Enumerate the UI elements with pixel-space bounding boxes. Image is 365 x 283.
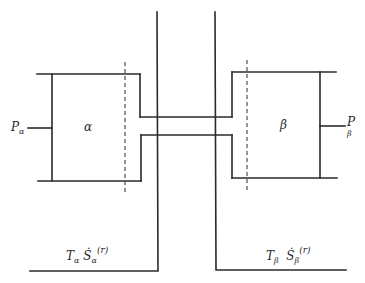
beta-entropy-symbol: Ṡ [286,249,294,263]
beta-chamber-label: β [280,119,287,131]
beta-pressure-label: Pβ [347,116,355,128]
beta-heat-label: Tβ Ṡβ(r) [266,250,310,262]
alpha-pressure-label: Pα [11,121,24,133]
beta-entropy-superscript: (r) [299,245,310,255]
beta-pressure-subscript: β [347,130,352,138]
reservoir-boundaries [30,12,346,271]
alpha-pressure-subscript: α [19,127,24,136]
diagram-canvas [0,0,365,283]
beta-reservoir-boundary [215,12,346,270]
alpha-chamber-label: α [84,121,92,133]
chamber-beta [232,72,345,178]
beta-temperature-subscript: β [274,256,279,265]
beta-entropy-subscript: β [295,256,300,265]
alpha-temperature-subscript: α [74,256,79,265]
beta-temperature-symbol: T [266,249,274,263]
alpha-heat-label: Tα Ṡα(r) [66,250,108,262]
alpha-entropy-subscript: α [91,256,96,265]
alpha-pressure-symbol: P [11,120,19,134]
channel [140,117,232,135]
alpha-entropy-superscript: (r) [97,245,108,255]
alpha-temperature-symbol: T [66,249,74,263]
alpha-reservoir-boundary [30,12,158,271]
beta-pressure-symbol: P [347,115,355,129]
